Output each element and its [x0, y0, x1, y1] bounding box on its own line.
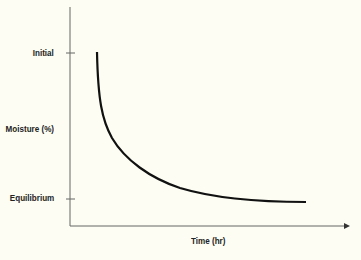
x-axis-label: Time (hr): [191, 235, 225, 246]
y-tick-label-equilibrium: Equilibrium: [10, 192, 54, 203]
x-axis-arrow-icon: [344, 223, 350, 229]
drying-curve: [97, 52, 306, 202]
y-axis-label: Moisture (%): [6, 123, 54, 134]
chart-canvas: [0, 0, 361, 260]
y-tick-label-initial: Initial: [33, 47, 54, 58]
